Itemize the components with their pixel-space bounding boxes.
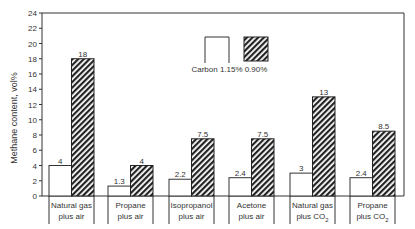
- x-category-label-line1: Isopropanol: [171, 201, 213, 210]
- y-tick-label: 6: [33, 146, 38, 155]
- legend-label-0-90: 0.90%: [245, 65, 268, 74]
- y-tick-label: 24: [28, 9, 37, 18]
- plot-frame: [42, 13, 404, 196]
- bar-carbon-1-15: [350, 178, 373, 196]
- bar-carbon-0-90: [192, 139, 215, 196]
- y-tick-label: 10: [28, 116, 37, 125]
- data-label: 8.5: [378, 122, 390, 131]
- data-label: 2.4: [235, 169, 247, 178]
- data-label: 4: [58, 157, 63, 166]
- legend-swatch-carbon-1-15: [205, 37, 229, 63]
- y-tick-label: 14: [28, 85, 37, 94]
- bar-carbon-1-15: [290, 173, 313, 196]
- y-axis-title: Methane content, vol%: [9, 72, 19, 164]
- y-tick-label: 8: [33, 131, 38, 140]
- y-tick-label: 18: [28, 55, 37, 64]
- y-tick-label: 2: [33, 177, 38, 186]
- x-category-label-line2: plus air: [118, 212, 144, 221]
- bar-carbon-1-15: [229, 178, 252, 196]
- data-label: 4: [140, 157, 145, 166]
- bar-carbon-0-90: [131, 166, 154, 197]
- data-label: 1.3: [114, 177, 126, 186]
- legend-swatch-0-90: [244, 37, 268, 61]
- data-label: 2.4: [356, 169, 368, 178]
- x-category-label-line2: plus CO2: [296, 212, 329, 223]
- x-category-label-line2: plus air: [179, 212, 205, 221]
- y-tick-label: 4: [33, 162, 38, 171]
- y-tick-label: 22: [28, 24, 37, 33]
- data-label: 2.2: [175, 170, 187, 179]
- x-category-label-line2: plus CO2: [356, 212, 389, 223]
- x-category-label-line2: plus air: [59, 212, 85, 221]
- bar-carbon-1-15: [108, 186, 131, 196]
- data-label: 7.5: [257, 130, 269, 139]
- y-tick-label: 20: [28, 40, 37, 49]
- bar-carbon-0-90: [252, 139, 275, 196]
- data-label: 13: [319, 88, 328, 97]
- x-category-label-line1: Propane: [357, 201, 388, 210]
- bar-chart: 024681012141618202224 4181.342.27.52.47.…: [0, 0, 415, 229]
- bar-carbon-0-90: [313, 97, 336, 196]
- x-category-label-line1: Natural gas: [51, 201, 92, 210]
- bar-carbon-0-90: [373, 131, 396, 196]
- x-category-label-line1: Propane: [115, 201, 146, 210]
- data-label: 18: [78, 50, 87, 59]
- bar-carbon-1-15: [169, 179, 192, 196]
- x-category-label-line1: Natural gas: [292, 201, 333, 210]
- y-axis: 024681012141618202224: [28, 9, 42, 201]
- bar-carbon-1-15: [49, 166, 72, 197]
- x-category-labels: Natural gasplus airPropaneplus airIsopro…: [49, 196, 395, 224]
- bar-carbon-0-90: [72, 59, 95, 196]
- data-label: 7.5: [197, 130, 209, 139]
- x-category-label-line1: Acetone: [237, 201, 267, 210]
- y-tick-label: 16: [28, 70, 37, 79]
- y-tick-label: 12: [28, 101, 37, 110]
- y-tick-label: 0: [33, 192, 38, 201]
- x-category-label-line2: plus air: [239, 212, 265, 221]
- data-label: 3: [299, 164, 304, 173]
- legend: Carbon 1.15% 0.90%: [191, 37, 268, 74]
- legend-label-carbon-1-15: Carbon 1.15%: [191, 65, 242, 74]
